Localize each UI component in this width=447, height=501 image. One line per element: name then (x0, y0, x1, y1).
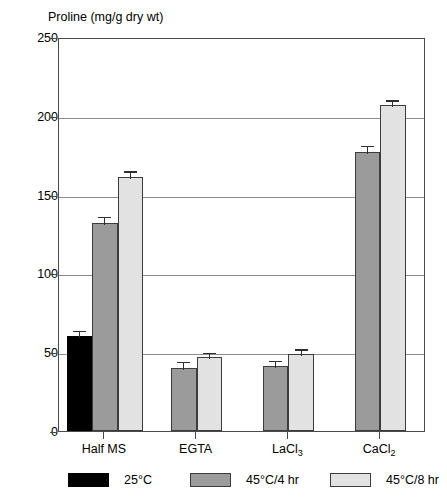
bar-cacl2-series1 (355, 152, 381, 431)
x-tick-label-egta: EGTA (179, 442, 212, 457)
y-tick-mark-250 (50, 38, 57, 39)
bar-lacl3-series1 (263, 366, 289, 431)
y-tick-mark-150 (50, 196, 57, 197)
error-bar-cap-lacl3-series2 (295, 349, 308, 350)
error-bar-cap-egta-series2 (203, 353, 216, 354)
y-tick-mark-200 (50, 117, 57, 118)
chart-legend: 25°C45°C/4 hr45°C/8 hr (58, 470, 438, 494)
error-bar-cap-half-ms-series0 (73, 331, 86, 332)
error-bar-cap-cacl2-series1 (361, 146, 374, 147)
y-axis: 050100150200250 (0, 38, 58, 432)
bar-lacl3-series2 (288, 354, 314, 431)
gridline-200 (59, 118, 424, 119)
y-tick-mark-50 (50, 353, 57, 354)
x-tick-mark-3 (379, 432, 380, 439)
bar-half-ms-series0 (67, 336, 93, 431)
bar-half-ms-series2 (118, 177, 144, 431)
bar-egta-series1 (171, 368, 197, 431)
legend-label-1: 45°C/4 hr (246, 473, 299, 487)
error-bar-cap-half-ms-series1 (98, 217, 111, 218)
legend-item-1[interactable]: 45°C/4 hr (190, 470, 299, 490)
error-bar-cap-half-ms-series2 (124, 171, 137, 172)
chart-title: Proline (mg/g dry wt) (48, 9, 163, 25)
bar-chart-figure: Proline (mg/g dry wt) 050100150200250 Ha… (0, 0, 447, 501)
plot-area (58, 38, 425, 432)
legend-item-2[interactable]: 45°C/8 hr (330, 470, 439, 490)
light-gray-swatch (330, 473, 371, 487)
y-tick-mark-0 (50, 432, 57, 433)
x-tick-mark-2 (287, 432, 288, 439)
legend-label-2: 45°C/8 hr (386, 473, 439, 487)
x-tick-label-cacl2: CaCl2 (363, 442, 396, 458)
x-tick-mark-1 (195, 432, 196, 439)
x-axis: Half MSEGTALaCl3CaCl2 (58, 432, 425, 464)
bar-half-ms-series1 (92, 223, 118, 431)
black-swatch (68, 473, 109, 487)
error-bar-cap-egta-series1 (177, 362, 190, 363)
bar-egta-series2 (197, 357, 223, 431)
medium-gray-swatch (190, 473, 231, 487)
error-bar-cap-cacl2-series2 (386, 100, 399, 101)
x-tick-mark-0 (103, 432, 104, 439)
y-tick-mark-100 (50, 274, 57, 275)
x-tick-label-lacl3: LaCl3 (272, 442, 303, 458)
bar-cacl2-series2 (380, 105, 406, 431)
x-tick-label-half-ms: Half MS (82, 442, 126, 457)
legend-label-0: 25°C (124, 473, 152, 487)
legend-item-0[interactable]: 25°C (68, 470, 152, 490)
error-bar-cap-lacl3-series1 (269, 361, 282, 362)
